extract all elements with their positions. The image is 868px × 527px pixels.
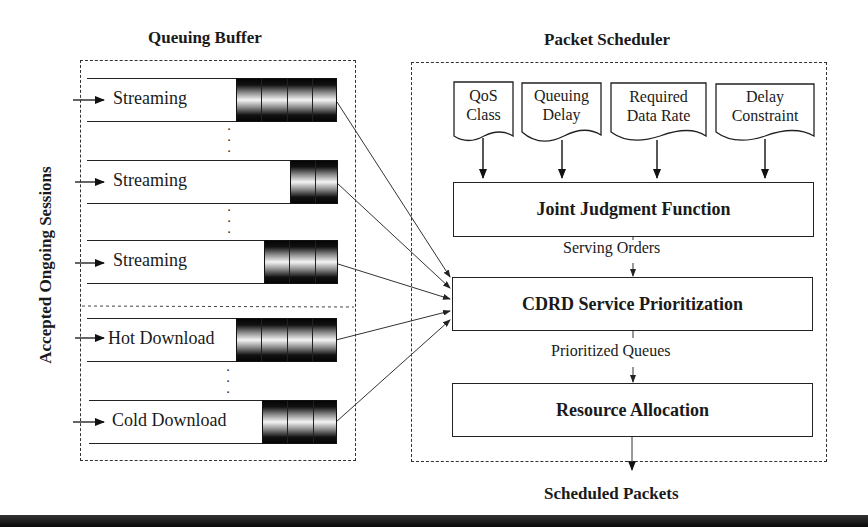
ellipsis: ··· [225,365,231,398]
queue-streaming-2: Streaming [87,160,338,204]
accepted-sessions-label: Accepted Ongoing Sessions [36,157,56,373]
queuing-buffer-title: Queuing Buffer [148,28,262,48]
queue-streaming-1: Streaming [87,78,337,122]
queue-label: Streaming [113,170,187,191]
ellipsis: ··· [226,205,232,238]
queue-cold-download: Cold Download [89,400,337,444]
input-delay-constraint: DelayConstraint [716,87,814,125]
prioritized-queues-label: Prioritized Queues [551,342,671,360]
resource-allocation-box: Resource Allocation [452,383,813,437]
bottom-border-bar [0,515,868,527]
queue-packets [262,400,337,444]
queue-packets [290,160,338,204]
queue-hot-download: Hot Download [87,318,337,362]
packet-scheduler-title: Packet Scheduler [544,30,670,50]
queue-label: Streaming [113,250,187,271]
queue-label: Streaming [113,88,187,109]
scheduled-packets-label: Scheduled Packets [544,484,679,504]
input-qos-class: QoSClass [454,86,513,124]
queue-label: Cold Download [112,410,227,431]
queue-packets [264,240,338,284]
queue-streaming-3: Streaming [87,240,338,284]
queue-packets [236,78,337,122]
cdrd-prioritization-box: CDRD Service Prioritization [452,277,813,331]
queue-packets [236,318,337,362]
queue-label: Hot Download [108,328,215,349]
serving-orders-label: Serving Orders [563,239,660,257]
joint-judgment-function-box: Joint Judgment Function [453,182,814,237]
input-required-data-rate: RequiredData Rate [611,87,706,125]
input-queuing-delay: QueuingDelay [522,86,601,124]
ellipsis: ··· [226,124,232,157]
